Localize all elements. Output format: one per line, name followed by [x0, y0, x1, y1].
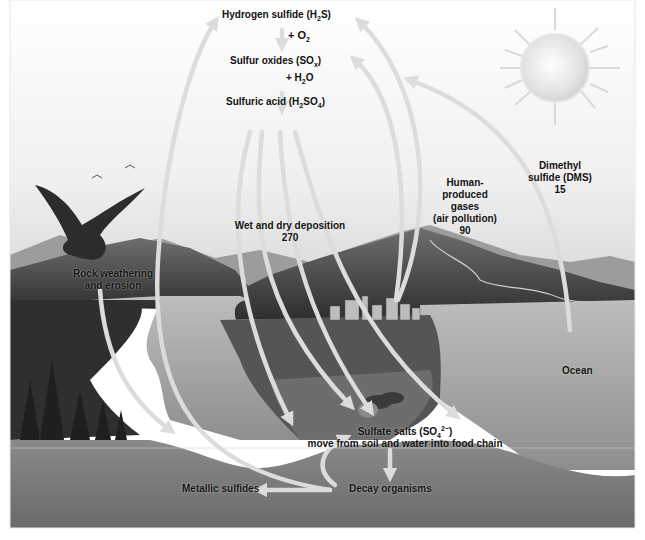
- label-wet-dry-deposition: Wet and dry deposition 270: [220, 220, 360, 244]
- deposition-value: 270: [220, 232, 360, 244]
- label-rock-weathering: Rock weathering and erosion: [58, 268, 168, 292]
- label-sulfuric-acid: Sulfuric acid (H2SO4): [226, 96, 325, 108]
- label-plus-o2: + O2: [288, 29, 310, 41]
- label-ocean: Ocean: [562, 365, 593, 377]
- human-produced-value: 90: [420, 225, 510, 237]
- label-dms: Dimethyl sulfide (DMS) 15: [520, 160, 600, 196]
- label-metallic-sulfides: Metallic sulfides: [182, 483, 259, 495]
- label-decay-organisms: Decay organisms: [349, 483, 432, 495]
- label-human-produced-gases: Human- produced gases (air pollution) 90: [420, 177, 510, 237]
- label-plus-h2o: + H2O: [286, 72, 314, 84]
- label-sulfur-oxides: Sulfur oxides (SOx): [230, 55, 321, 67]
- label-sulfate-salts: Sulfate salts (SO42−) move from soil and…: [270, 426, 540, 450]
- label-hydrogen-sulfide: Hydrogen sulfide (H2S): [222, 9, 331, 21]
- dms-value: 15: [520, 184, 600, 196]
